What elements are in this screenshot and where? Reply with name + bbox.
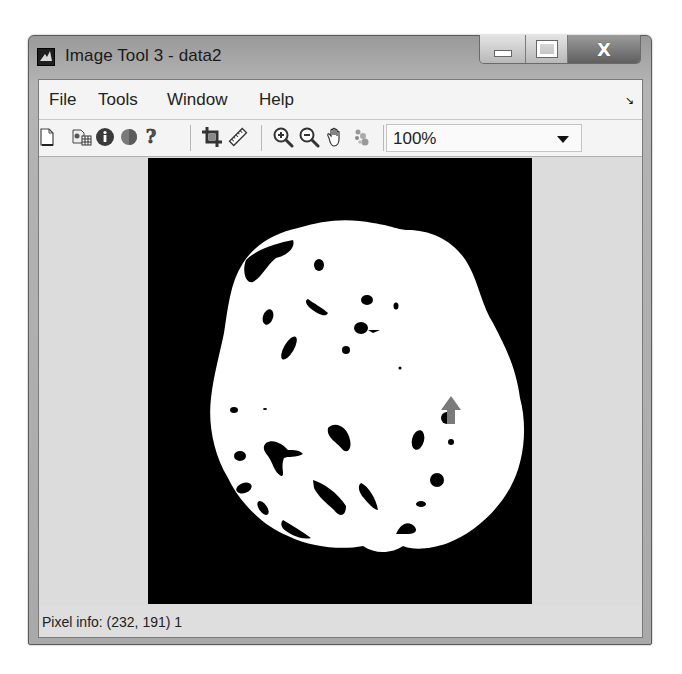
pixel-region-icon: [350, 126, 372, 148]
new-figure-button[interactable]: [36, 126, 58, 148]
menu-help[interactable]: Help: [259, 90, 294, 110]
dock-arrow-icon[interactable]: ↘: [625, 94, 634, 107]
adjust-contrast-button[interactable]: [118, 126, 140, 148]
brain-mask-image: [148, 158, 532, 604]
zoom-in-icon: [272, 126, 294, 148]
info-icon: [95, 127, 115, 147]
client-area: File Tools Window Help ↘: [38, 79, 643, 638]
document-icon: [38, 127, 56, 147]
image-tool-window: Image Tool 3 - data2 X File Tools Window…: [28, 35, 652, 645]
title-bar[interactable]: Image Tool 3 - data2 X: [29, 36, 651, 76]
contrast-icon: [119, 127, 139, 147]
crop-image-button[interactable]: [201, 126, 223, 148]
window-title: Image Tool 3 - data2: [65, 46, 222, 66]
hand-icon: [324, 126, 346, 148]
chevron-down-icon: [557, 136, 569, 143]
pan-button[interactable]: [324, 126, 346, 148]
toolbar: ?: [39, 120, 642, 157]
crop-icon: [201, 126, 223, 148]
measure-distance-button[interactable]: [227, 126, 249, 148]
maximize-icon: [537, 41, 557, 57]
zoom-out-button[interactable]: [298, 126, 320, 148]
status-bar: Pixel info: (232, 191) 1: [39, 605, 642, 637]
magnification-dropdown[interactable]: 100%: [386, 124, 582, 152]
menu-bar: File Tools Window Help ↘: [39, 80, 642, 120]
toolbar-separator: [383, 125, 384, 151]
close-button[interactable]: X: [568, 35, 640, 63]
toolbar-separator: [261, 125, 262, 151]
maximize-button[interactable]: [526, 35, 568, 63]
close-icon: X: [597, 39, 611, 60]
export-to-workspace-button[interactable]: [71, 126, 93, 148]
menu-file[interactable]: File: [49, 90, 76, 110]
help-icon: ?: [142, 126, 160, 148]
svg-text:?: ?: [146, 126, 157, 147]
image-information-button[interactable]: [94, 126, 116, 148]
menu-window[interactable]: Window: [167, 90, 227, 110]
pixel-region-button[interactable]: [350, 126, 372, 148]
minimize-icon: [494, 50, 512, 57]
minimize-button[interactable]: [480, 35, 526, 63]
matlab-logo-icon: [37, 48, 55, 66]
image-scroll-panel[interactable]: [39, 157, 642, 605]
toolbar-separator: [190, 125, 191, 151]
workspace-export-icon: [71, 127, 93, 147]
magnification-value: 100%: [393, 129, 436, 149]
zoom-in-button[interactable]: [272, 126, 294, 148]
image-display[interactable]: [148, 158, 532, 604]
ruler-icon: [227, 126, 249, 148]
zoom-out-icon: [298, 126, 320, 148]
menu-tools[interactable]: Tools: [98, 90, 138, 110]
help-button[interactable]: ?: [140, 126, 162, 148]
pixel-info-text: Pixel info: (232, 191) 1: [42, 614, 182, 630]
caption-buttons: X: [479, 35, 641, 64]
